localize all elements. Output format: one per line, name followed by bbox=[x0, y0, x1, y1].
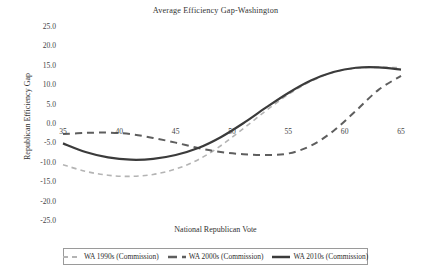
series-line bbox=[63, 67, 401, 160]
legend-swatch-2 bbox=[168, 253, 186, 261]
x-tick-label: 40 bbox=[104, 127, 134, 136]
chart-figure: Average Efficiency Gap-Washington 25.020… bbox=[0, 0, 431, 276]
series-line bbox=[63, 76, 401, 155]
x-tick-label: 60 bbox=[330, 127, 360, 136]
x-tick-label: 45 bbox=[161, 127, 191, 136]
legend-entry[interactable]: WA 1990s (Commission) bbox=[63, 252, 159, 261]
legend-swatch-1 bbox=[63, 253, 81, 261]
y-axis-label: Republican Efficiency Gap bbox=[23, 42, 32, 192]
x-tick-label: 55 bbox=[273, 127, 303, 136]
series-line bbox=[63, 67, 401, 176]
legend-entry[interactable]: WA 2010s (Commission) bbox=[272, 252, 368, 261]
x-tick-label: 65 bbox=[386, 127, 416, 136]
legend-label: WA 1990s (Commission) bbox=[84, 252, 159, 261]
x-tick-label: 35 bbox=[48, 127, 78, 136]
chart-legend: WA 1990s (Commission)WA 2000s (Commissio… bbox=[63, 248, 368, 265]
y-tick-label: 25.0 bbox=[22, 22, 56, 31]
legend-label: WA 2010s (Commission) bbox=[293, 252, 368, 261]
legend-label: WA 2000s (Commission) bbox=[189, 252, 264, 261]
plot-area bbox=[0, 0, 431, 276]
y-tick-label: -25.0 bbox=[22, 216, 56, 225]
y-tick-label: -20.0 bbox=[22, 197, 56, 206]
legend-entry[interactable]: WA 2000s (Commission) bbox=[168, 252, 264, 261]
legend-swatch-3 bbox=[272, 253, 290, 261]
series-group bbox=[63, 67, 401, 176]
x-axis-label: National Republican Vote bbox=[0, 225, 431, 234]
x-tick-label: 50 bbox=[217, 127, 247, 136]
